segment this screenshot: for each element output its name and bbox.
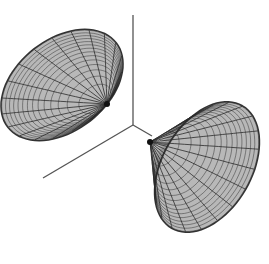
y-axis <box>133 125 152 136</box>
upper-left-dish <box>2 30 123 140</box>
diagram-canvas <box>0 0 269 264</box>
dish-surface <box>2 30 123 140</box>
dish-apex <box>147 139 153 145</box>
lower-right-dish <box>147 103 259 232</box>
dish-apex <box>104 101 110 107</box>
dish-surfaces <box>2 30 259 231</box>
